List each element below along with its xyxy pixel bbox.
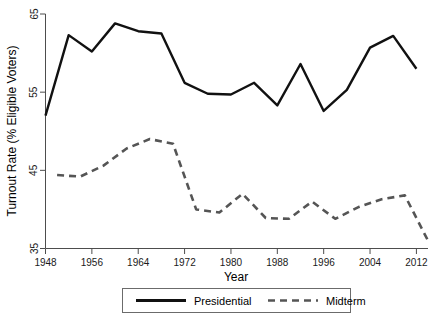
y-tick-label: 65 xyxy=(29,8,40,20)
x-tick-label: 1972 xyxy=(173,257,196,268)
x-tick-label: 1956 xyxy=(81,257,104,268)
x-tick-label: 1980 xyxy=(220,257,243,268)
x-tick-label: 1996 xyxy=(313,257,336,268)
x-tick-label: 2012 xyxy=(405,257,428,268)
y-axis-title: Turnout Rate (% Eligible Voters) xyxy=(5,46,19,217)
legend: PresidentialMidterm xyxy=(123,289,366,313)
y-tick-label: 55 xyxy=(29,86,40,98)
chart-container: 35455565 1948195619641972198019881996200… xyxy=(0,0,435,318)
turnout-line-chart: 35455565 1948195619641972198019881996200… xyxy=(0,0,435,318)
y-tick-label: 45 xyxy=(29,164,40,176)
x-tick-label: 1988 xyxy=(266,257,289,268)
x-tick-label: 2004 xyxy=(359,257,382,268)
x-tick-label: 1964 xyxy=(127,257,150,268)
x-axis-title: Year xyxy=(224,270,248,284)
x-tick-label: 1948 xyxy=(34,257,57,268)
legend-label-presidential: Presidential xyxy=(194,295,251,307)
legend-label-midterm: Midterm xyxy=(326,295,366,307)
y-tick-label: 35 xyxy=(29,243,40,255)
